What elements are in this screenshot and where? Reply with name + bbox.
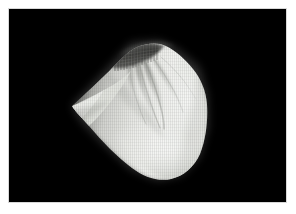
- render-canvas: [9, 9, 286, 202]
- lower-lobe-highlight: [143, 127, 195, 175]
- right-bulge-highlight: [165, 67, 213, 135]
- surface-object: [9, 9, 286, 202]
- figure-root: [0, 0, 296, 214]
- surface-silhouette: [66, 42, 213, 187]
- figure-caption: [0, 0, 1, 1]
- mid-highlight: [125, 75, 157, 115]
